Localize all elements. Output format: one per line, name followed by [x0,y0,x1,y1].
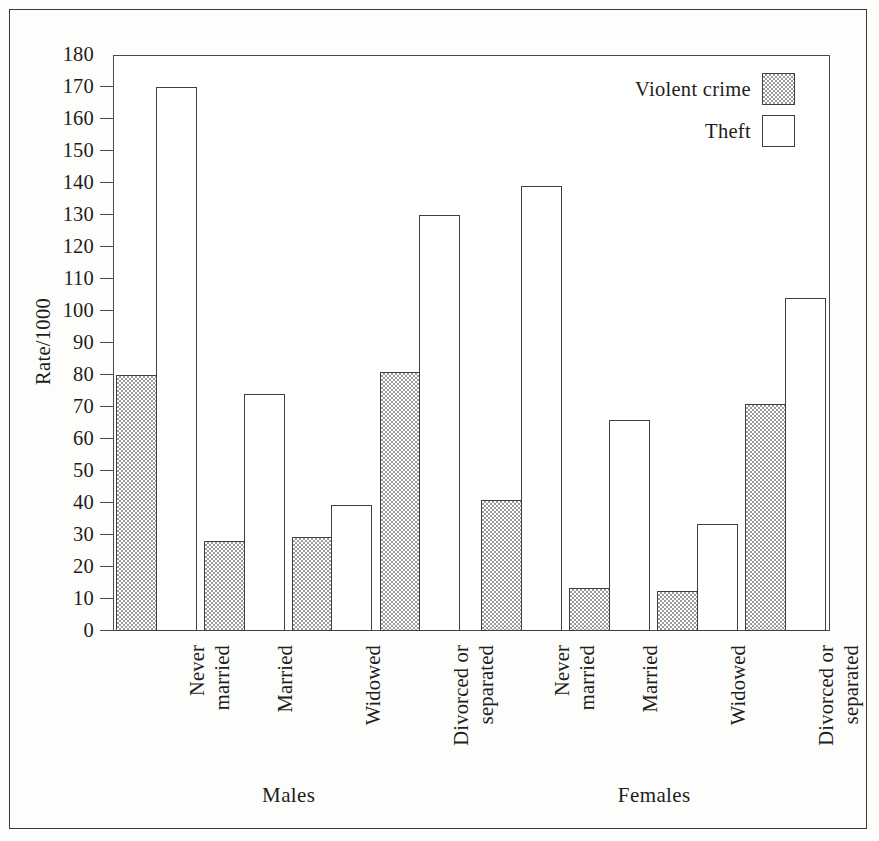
y-axis-tick-mark [100,598,113,599]
bar-theft [244,394,285,631]
bar-theft [785,298,826,631]
bar-theft [609,420,650,631]
y-axis-tick-mark [100,86,113,87]
y-axis-tick-label: 60 [73,425,94,452]
y-axis-tick-label: 130 [63,201,94,228]
legend-label-violent-crime: Violent crime [635,78,751,101]
y-axis-tick-mark [100,150,113,151]
y-axis-tick-mark [100,374,113,375]
y-axis-tick-mark [100,534,113,535]
legend: Violent crime Theft [520,68,795,152]
y-axis-tick-mark [100,630,113,631]
y-axis-tick-label: 20 [73,553,94,580]
x-axis-group-label-females: Females [564,783,744,808]
bar-theft [156,87,197,631]
y-axis-tick-label: 120 [63,233,94,260]
y-axis-tick-label: 180 [63,41,94,68]
bar-violent-crime [569,588,610,631]
y-axis-tick-mark [100,182,113,183]
bar-violent-crime [745,404,786,631]
x-axis-group-label-males: Males [199,783,379,808]
y-axis-tick-mark [100,566,113,567]
legend-swatch-theft [762,115,795,147]
y-axis-tick-mark [100,214,113,215]
bar-theft [419,215,460,631]
bar-theft [521,186,562,631]
y-axis-tick-label: 10 [73,585,94,612]
bar-violent-crime [657,591,698,631]
bar-violent-crime [380,372,421,631]
x-axis-label-6: Widowed [726,639,782,789]
bar-theft [331,505,372,631]
y-axis-tick-label: 150 [63,137,94,164]
y-axis-tick-mark [100,406,113,407]
y-axis-tick-mark [100,278,113,279]
y-axis-tick-label: 160 [63,105,94,132]
legend-label-theft: Theft [705,120,751,143]
y-axis-tick-mark [100,310,113,311]
y-axis-tick-label: 30 [73,521,94,548]
y-axis-tick-label: 80 [73,361,94,388]
y-axis-tick-label: 140 [63,169,94,196]
y-axis-tick-label: 170 [63,73,94,100]
x-axis-label-2: Widowed [361,639,417,789]
x-axis-label-7: Divorced or separated [814,639,870,789]
legend-item-theft: Theft [520,110,795,152]
y-axis-tick-mark [100,502,113,503]
y-axis-tick-label: 50 [73,457,94,484]
x-axis-label-4: Never married [550,639,606,789]
x-axis-label-1: Married [273,639,329,789]
y-axis-tick-mark [100,438,113,439]
legend-swatch-violent-crime [762,73,795,105]
bar-violent-crime [204,541,245,631]
y-axis-tick-label: 100 [63,297,94,324]
figure-container: Rate/1000 010203040506070809010011012013… [0,0,879,841]
x-axis-label-3: Divorced or separated [449,639,505,789]
x-axis-label-0: Never married [185,639,241,789]
bar-violent-crime [292,537,333,631]
x-axis-label-5: Married [638,639,694,789]
bar-theft [697,524,738,631]
y-axis-tick-mark [100,246,113,247]
y-axis-tick-label: 110 [63,265,94,292]
y-axis-tick-mark [100,470,113,471]
y-axis-tick-label: 90 [73,329,94,356]
y-axis: 0102030405060708090100110120130140150160… [0,55,113,631]
y-axis-tick-mark [100,342,113,343]
x-axis-group-labels: MalesFemales [113,783,830,817]
legend-item-violent-crime: Violent crime [520,68,795,110]
y-axis-tick-label: 40 [73,489,94,516]
bar-violent-crime [481,500,522,631]
y-axis-tick-label: 70 [73,393,94,420]
x-axis-category-labels: Never marriedMarriedWidowedDivorced or s… [113,631,830,781]
bar-violent-crime [116,375,157,631]
y-axis-tick-mark [100,118,113,119]
y-axis-tick-label: 0 [84,617,94,644]
